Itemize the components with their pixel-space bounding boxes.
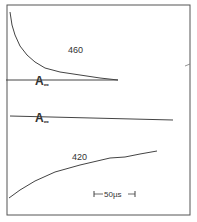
a-inf-label-1: A∞ (35, 74, 49, 88)
right-edge-tick (185, 64, 190, 66)
trace-460-label: 460 (68, 45, 83, 55)
trace-460-curve (10, 12, 118, 80)
plot-frame (7, 5, 190, 215)
time-scale-bar: 50µs (94, 190, 135, 199)
scale-bar-label: 50µs (104, 190, 122, 199)
a-inf-label-2: A∞ (35, 111, 49, 125)
trace-420-label: 420 (72, 152, 87, 162)
kinetics-figure: 460 A∞ A∞ 420 50µs (0, 0, 197, 222)
